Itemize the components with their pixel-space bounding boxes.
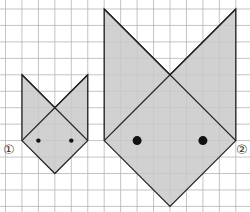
figure-label-1: ① bbox=[3, 143, 15, 156]
fish-shapes bbox=[22, 9, 236, 206]
figure-label-2: ② bbox=[236, 143, 248, 156]
grid-figure bbox=[0, 0, 250, 212]
eye-dot bbox=[133, 136, 142, 145]
eye-dot bbox=[198, 136, 207, 145]
eye-dot bbox=[69, 138, 73, 142]
eye-dot bbox=[36, 138, 40, 142]
